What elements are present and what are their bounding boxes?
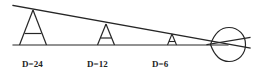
optotype-medium [98,24,115,45]
optotype-small-right-stroke [172,34,177,45]
optotype-small [168,34,177,45]
optotype-large [20,10,47,45]
optotype-large-left-stroke [20,10,34,45]
distance-label-d12: D=12 [87,59,108,70]
optotype-medium-left-stroke [98,24,107,45]
optotype-large-right-stroke [33,10,47,45]
optotype-medium-right-stroke [106,24,115,45]
distance-label-d6: D=6 [152,59,168,70]
optics-diagram-figure: D=24 D=12 D=6 [0,0,256,82]
upper-ray-line [13,6,250,49]
optotype-small-left-stroke [168,34,173,45]
distance-label-d24: D=24 [22,59,43,70]
